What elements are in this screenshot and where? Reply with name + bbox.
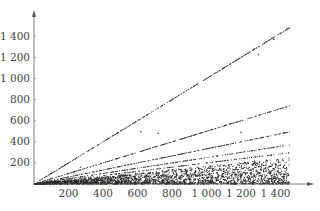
scatter-chart: 2004006008001 0001 2001 400 200400600800…: [0, 0, 320, 211]
y-tick-label: 1 000: [0, 72, 30, 84]
y-tick-label: 800: [10, 93, 30, 105]
x-tick-labels: 2004006008001 0001 2001 400: [58, 182, 290, 199]
y-axis-arrow-icon: [32, 10, 36, 17]
y-tick-label: 1 400: [0, 30, 30, 42]
y-tick-label: 1 200: [0, 51, 30, 63]
x-tick-label: 800: [162, 187, 182, 199]
y-tick-label: 600: [10, 114, 30, 126]
x-tick-label: 1 400: [260, 187, 290, 199]
y-tick-label: 200: [10, 156, 30, 168]
x-tick-label: 400: [93, 187, 113, 199]
x-axis-arrow-icon: [307, 182, 314, 186]
x-tick-label: 1 000: [191, 187, 221, 199]
x-tick-label: 600: [127, 187, 147, 199]
y-tick-label: 400: [10, 135, 30, 147]
x-tick-label: 1 200: [226, 187, 256, 199]
y-tick-labels: 2004006008001 0001 2001 400: [0, 30, 36, 169]
data-points: [34, 27, 290, 184]
x-tick-label: 200: [58, 187, 78, 199]
